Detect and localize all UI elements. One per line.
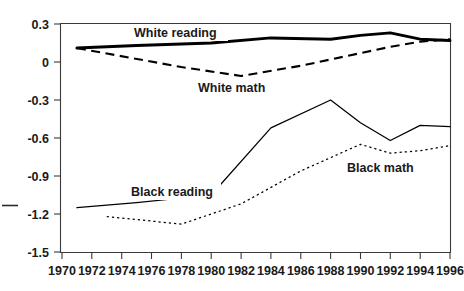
x-axis-label-6: 1982: [227, 264, 255, 278]
y-axis-label-1: 0: [42, 56, 49, 70]
series-label-white-math: White math: [198, 81, 265, 95]
x-axis-label-3: 1976: [138, 264, 166, 278]
y-axis-labels: 0.3 0 -0.3 -0.6 -0.9 -1.2 -1.5: [27, 18, 49, 260]
series-label-white-reading: White reading: [134, 26, 217, 40]
x-axis-label-2: 1974: [108, 264, 136, 278]
line-chart-canvas: 0.3 0 -0.3 -0.6 -0.9 -1.2 -1.5: [0, 0, 464, 291]
x-axis-label-1: 1972: [78, 264, 106, 278]
y-axis-label-5: -1.2: [27, 208, 49, 222]
x-axis-label-4: 1978: [167, 264, 195, 278]
x-axis-label-7: 1984: [257, 264, 285, 278]
x-axis-label-5: 1980: [197, 264, 225, 278]
x-axis-label-12: 1994: [406, 264, 434, 278]
x-axis-label-11: 1992: [376, 264, 404, 278]
x-axis-label-13: 1996: [436, 264, 464, 278]
series-annotations: White reading White math Black reading B…: [128, 24, 420, 200]
x-axis-labels: 1970 1972 1974 1976 1978 1980 1982 1984 …: [48, 264, 464, 278]
x-axis-ticks: [62, 253, 450, 260]
x-axis-label-8: 1986: [287, 264, 315, 278]
series-label-black-reading: Black reading: [131, 185, 213, 199]
chart-figure: 0.3 0 -0.3 -0.6 -0.9 -1.2 -1.5: [0, 0, 464, 291]
y-axis-label-2: -0.3: [27, 94, 49, 108]
y-axis-ticks: [54, 24, 61, 252]
x-axis-label-0: 1970: [48, 264, 76, 278]
y-axis-label-3: -0.6: [27, 132, 49, 146]
x-axis-label-10: 1990: [347, 264, 375, 278]
y-axis-label-4: -0.9: [27, 170, 49, 184]
y-axis-label-0: 0.3: [32, 18, 49, 32]
y-axis-label-6: -1.5: [27, 246, 49, 260]
series-label-black-math: Black math: [347, 161, 414, 175]
x-axis-label-9: 1988: [317, 264, 345, 278]
